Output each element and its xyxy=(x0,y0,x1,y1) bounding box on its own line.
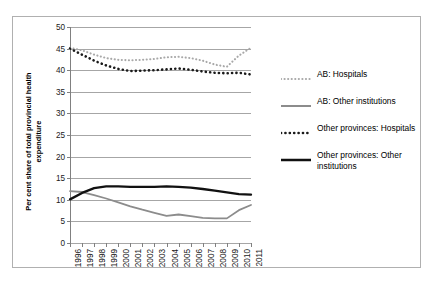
legend-swatch-icon xyxy=(281,151,311,161)
x-axis-tick xyxy=(142,243,143,247)
x-axis-tick xyxy=(215,243,216,247)
legend-label: Other provinces: Hospitals xyxy=(317,123,415,134)
y-axis-tick-label: 10 xyxy=(56,195,65,204)
y-axis-tick xyxy=(67,221,70,222)
x-axis-tick-label: 2006 xyxy=(195,249,204,267)
x-axis-tick-label: 2009 xyxy=(231,249,240,267)
y-axis-title: Per cent share of total provincial healt… xyxy=(13,17,53,267)
x-axis-tick xyxy=(191,243,192,247)
y-axis-tick xyxy=(67,92,70,93)
legend-swatch-icon xyxy=(281,70,311,80)
x-axis-tick xyxy=(179,243,180,247)
series-line xyxy=(70,49,251,75)
legend-swatch-icon xyxy=(281,97,311,107)
y-axis-title-line-2: expenditure xyxy=(33,121,42,163)
series-group xyxy=(70,27,251,243)
y-axis-tick-label: 20 xyxy=(56,152,65,161)
y-axis-tick-label: 5 xyxy=(60,217,65,226)
x-axis-tick xyxy=(70,243,71,247)
y-axis-tick xyxy=(67,27,70,28)
x-axis-tick-label: 2010 xyxy=(243,249,252,267)
x-axis-tick-label: 1996 xyxy=(74,249,83,267)
y-axis-tick-label: 25 xyxy=(56,131,65,140)
y-axis-tick-label: 50 xyxy=(56,23,65,32)
x-axis-tick-label: 2001 xyxy=(134,249,143,267)
legend-label: AB: Other institutions xyxy=(317,96,396,107)
x-axis-tick xyxy=(239,243,240,247)
legend-item: AB: Other institutions xyxy=(281,96,419,107)
y-axis-tick xyxy=(67,70,70,71)
legend-label: AB: Hospitals xyxy=(317,69,367,80)
x-axis-tick xyxy=(106,243,107,247)
x-axis-tick xyxy=(227,243,228,247)
y-axis-tick-label: 15 xyxy=(56,174,65,183)
x-axis-tick-label: 2002 xyxy=(146,249,155,267)
y-axis-tick xyxy=(67,49,70,50)
plot-area: 0510152025303540455019961997199819992000… xyxy=(70,27,251,243)
y-axis-tick-label: 45 xyxy=(56,44,65,53)
x-axis-tick-label: 2000 xyxy=(122,249,131,267)
x-axis-tick-label: 2008 xyxy=(219,249,228,267)
y-axis-tick xyxy=(67,200,70,201)
x-axis-tick xyxy=(167,243,168,247)
y-axis-tick xyxy=(67,157,70,158)
x-axis-tick xyxy=(82,243,83,247)
y-axis-tick-label: 0 xyxy=(60,239,65,248)
x-axis-tick xyxy=(94,243,95,247)
series-line xyxy=(70,191,251,218)
legend-swatch-icon xyxy=(281,124,311,134)
x-axis-tick-label: 2005 xyxy=(183,249,192,267)
y-axis-tick xyxy=(67,113,70,114)
x-axis-tick xyxy=(251,243,252,247)
x-axis-tick xyxy=(154,243,155,247)
x-axis-tick-label: 2004 xyxy=(171,249,180,267)
chart-legend: AB: HospitalsAB: Other institutionsOther… xyxy=(281,69,419,187)
legend-label: Other provinces: Other institutions xyxy=(317,150,419,171)
y-axis-title-line-1: Per cent share of total provincial healt… xyxy=(23,73,32,211)
series-line xyxy=(70,186,251,199)
x-axis-tick xyxy=(203,243,204,247)
legend-item: Other provinces: Other institutions xyxy=(281,150,419,171)
x-axis-tick xyxy=(118,243,119,247)
x-axis-tick-label: 1999 xyxy=(110,249,119,267)
x-axis-tick-label: 2007 xyxy=(207,249,216,267)
chart-figure: Per cent share of total provincial healt… xyxy=(12,16,421,268)
legend-item: AB: Hospitals xyxy=(281,69,419,80)
x-axis-tick-label: 2011 xyxy=(255,249,264,267)
gridline xyxy=(70,243,251,244)
x-axis-tick-label: 1997 xyxy=(86,249,95,267)
x-axis-tick-label: 1998 xyxy=(98,249,107,267)
y-axis-title-text: Per cent share of total provincial healt… xyxy=(23,73,42,211)
x-axis-tick xyxy=(130,243,131,247)
y-axis-tick-label: 40 xyxy=(56,66,65,75)
y-axis-tick xyxy=(67,135,70,136)
x-axis-tick-label: 2003 xyxy=(158,249,167,267)
legend-item: Other provinces: Hospitals xyxy=(281,123,419,134)
y-axis-tick-label: 35 xyxy=(56,87,65,96)
y-axis-tick xyxy=(67,178,70,179)
series-line xyxy=(70,48,251,67)
y-axis-tick-label: 30 xyxy=(56,109,65,118)
